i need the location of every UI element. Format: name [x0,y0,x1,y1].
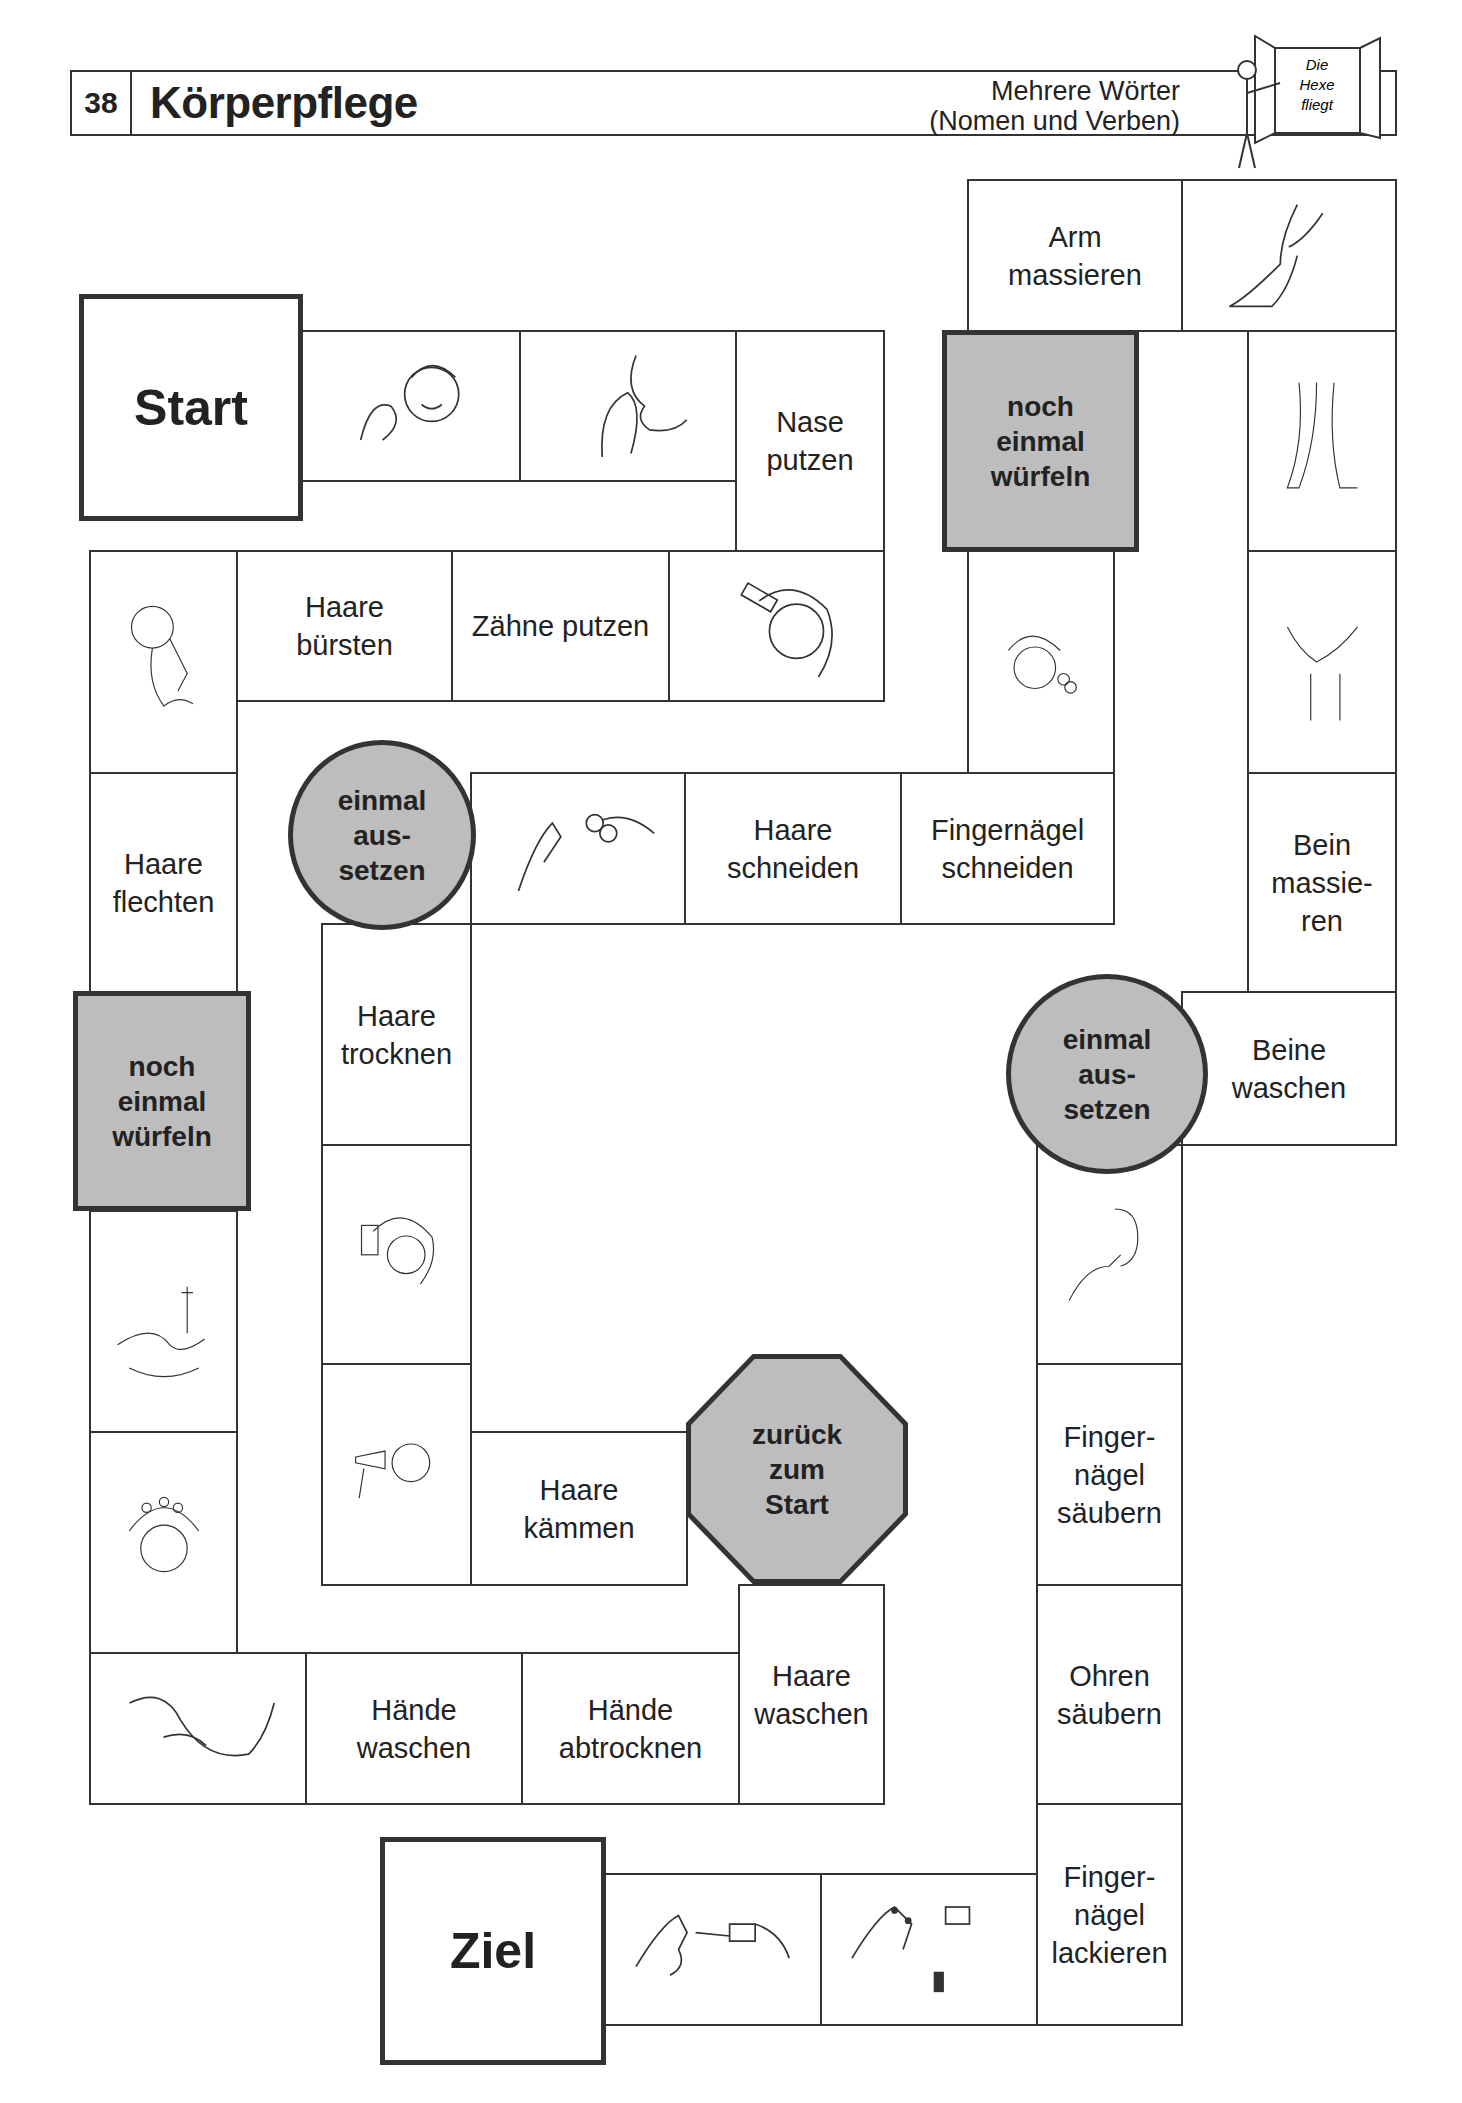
nose-blowing-icon [325,347,498,465]
field-zurueck-zum-start[interactable]: zurück zum Start [686,1354,908,1584]
legs-shower-icon [1264,354,1381,528]
start-field[interactable]: Start [79,294,303,521]
field-fingernaegel-lackieren[interactable]: Finger- nägel lackieren [1036,1803,1183,2026]
subtitle-line-1: Mehrere Wörter [929,76,1180,106]
svg-text:fliegt: fliegt [1301,96,1334,113]
field-haare-kaemmen[interactable]: Haare kämmen [470,1431,688,1586]
picture-field-hair-drying-dryer[interactable] [321,1363,472,1586]
picture-field-hair-cutting-girl[interactable] [967,550,1115,774]
picture-field-nail-polish-applying[interactable] [604,1873,822,2026]
field-fingernaegel-saeubern[interactable]: Finger- nägel säubern [1036,1363,1183,1586]
leg-massage-icon [1204,196,1374,315]
ear-cleaning-icon [1052,1168,1166,1342]
hand-washing-icon [106,1234,222,1409]
zurueck-zum-start-label: zurück zum Start [691,1359,903,1579]
picture-field-hair-combing[interactable] [321,1144,472,1365]
field-noch-einmal-wuerfeln-left[interactable]: noch einmal würfeln [73,991,251,1211]
picture-field-leg-massage[interactable] [1181,179,1397,332]
field-haare-flechten[interactable]: Haare flechten [89,772,238,993]
hair-washing-icon [106,1455,222,1630]
picture-field-nail-polish-bottle[interactable] [820,1873,1038,2026]
field-haare-trocknen[interactable]: Haare trocknen [321,923,472,1146]
subtitle-line-2: (Nomen und Verben) [929,106,1180,136]
leg-washing-icon [1264,574,1381,750]
field-nase-putzen[interactable]: Nase putzen [735,330,885,552]
field-einmal-aussetzen-right[interactable]: einmal aus- setzen [1006,974,1208,1174]
picture-field-hand-washing-basin[interactable] [89,1210,238,1433]
picture-field-legs-showering[interactable] [1247,330,1397,552]
field-fingernaegel-schneiden[interactable]: Fingernägel schneiden [900,772,1115,925]
field-haare-schneiden[interactable]: Haare schneiden [684,772,902,925]
picture-field-hands-drying-towel[interactable] [89,1652,307,1805]
field-haare-buersten[interactable]: Haare bürsten [236,550,453,702]
page-subtitle: Mehrere Wörter (Nomen und Verben) [929,76,1180,136]
picture-field-hair-brushing-girl[interactable] [668,550,885,702]
field-beine-waschen[interactable]: Beine waschen [1181,991,1397,1146]
field-haende-abtrocknen[interactable]: Hände abtrocknen [521,1652,740,1805]
field-haende-waschen[interactable]: Hände waschen [305,1652,523,1805]
field-zaehne-putzen[interactable]: Zähne putzen [451,550,670,702]
hair-drying-icon [338,1387,456,1562]
nail-polish-icon [627,1890,798,2009]
picture-field-hair-braiding[interactable] [89,550,238,774]
hair-braiding-icon [106,574,222,750]
field-arm-massieren[interactable]: Arm massieren [967,179,1183,332]
field-ohren-saeubern[interactable]: Ohren säubern [1036,1584,1183,1805]
picture-field-hair-washing-shampoo[interactable] [89,1431,238,1654]
hands-drying-icon [112,1669,283,1788]
page-title: Körperpflege [150,78,418,128]
picture-field-nose-blowing-boy[interactable] [301,330,521,482]
page-number: 38 [72,72,132,134]
picture-field-nail-cutting-scissors[interactable] [470,772,686,925]
goal-field[interactable]: Ziel [380,1837,606,2065]
picture-field-nose-blowing-closeup[interactable] [519,330,737,482]
field-haare-waschen[interactable]: Haare waschen [738,1584,885,1805]
field-noch-einmal-wuerfeln-right[interactable]: noch einmal würfeln [942,330,1139,552]
nail-cutting-icon [493,789,663,908]
svg-text:Hexe: Hexe [1299,76,1334,93]
hexe-fliegt-logo: Die Hexe fliegt [1195,28,1395,178]
field-bein-massieren[interactable]: Bein massie- ren [1247,772,1397,993]
nail-polish-bottle-icon [843,1890,1014,2009]
hair-brushing-icon [691,567,861,685]
game-board: 38 Körperpflege Mehrere Wörter (Nomen un… [0,0,1462,2103]
nose-closeup-icon [542,347,713,465]
picture-field-ear-cleaning[interactable] [1036,1144,1183,1365]
svg-text:Die: Die [1306,56,1329,73]
hair-combing-icon [338,1168,456,1342]
picture-field-leg-washing-hands[interactable] [1247,550,1397,774]
field-einmal-aussetzen-left[interactable]: einmal aus- setzen [288,740,476,930]
hair-cutting-icon [983,574,1098,750]
